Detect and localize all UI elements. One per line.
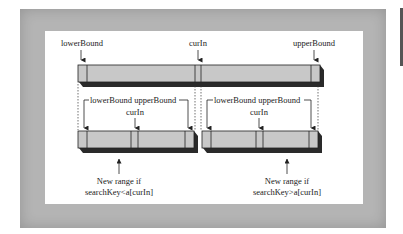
right-caption-line2: searchKey>a[curIn] bbox=[253, 187, 321, 197]
top-cur-in-label: curIn bbox=[189, 38, 208, 48]
left-upper-arrow-icon bbox=[179, 100, 188, 128]
right-caption-line1: New range if bbox=[265, 176, 310, 186]
dotted-guides bbox=[78, 84, 318, 130]
top-array bbox=[78, 65, 324, 87]
right-lower-arrow-icon bbox=[207, 100, 213, 128]
right-upper-arrow-icon bbox=[304, 100, 311, 128]
left-caption-line1: New range if bbox=[97, 176, 142, 186]
right-bounds-label: lowerBound upperBound bbox=[214, 95, 301, 105]
left-subarray bbox=[78, 131, 198, 153]
left-cur-in-label: curIn bbox=[126, 107, 145, 117]
right-subarray bbox=[202, 131, 322, 153]
left-bounds-label: lowerBound upperBound bbox=[90, 95, 177, 105]
binary-search-diagram: lowerBound curIn upperBound lowerBound u… bbox=[0, 0, 403, 234]
right-cur-in-label: curIn bbox=[250, 107, 269, 117]
top-upper-bound-label: upperBound bbox=[293, 38, 336, 48]
left-lower-arrow-icon bbox=[84, 100, 89, 128]
left-caption-line2: searchKey<a[curIn] bbox=[85, 187, 153, 197]
top-lower-bound-label: lowerBound bbox=[61, 38, 104, 48]
